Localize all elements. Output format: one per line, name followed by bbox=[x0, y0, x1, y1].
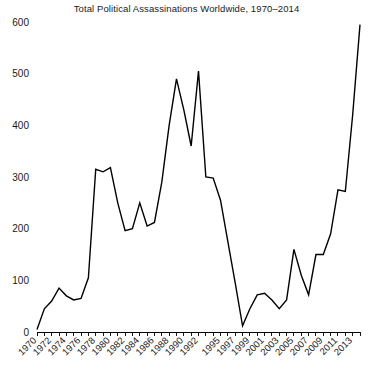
chart-figure: Total Political Assassinations Worldwide… bbox=[0, 0, 373, 370]
y-axis-tick-labels: 0100200300400500600 bbox=[12, 17, 29, 338]
data-series-line bbox=[37, 25, 360, 330]
y-axis-tick-label: 300 bbox=[12, 172, 29, 183]
x-axis-tick-marks bbox=[37, 332, 360, 336]
y-axis-tick-label: 600 bbox=[12, 17, 29, 28]
x-axis-tick-labels: 1970197219741976197819801982198419861988… bbox=[16, 335, 354, 358]
y-axis-tick-label: 400 bbox=[12, 120, 29, 131]
line-chart-plot: 0100200300400500600 19701972197419761978… bbox=[0, 0, 373, 370]
y-axis-tick-label: 200 bbox=[12, 223, 29, 234]
y-axis-tick-label: 500 bbox=[12, 68, 29, 79]
y-axis-tick-label: 100 bbox=[12, 275, 29, 286]
x-axis: 1970197219741976197819801982198419861988… bbox=[16, 332, 360, 357]
